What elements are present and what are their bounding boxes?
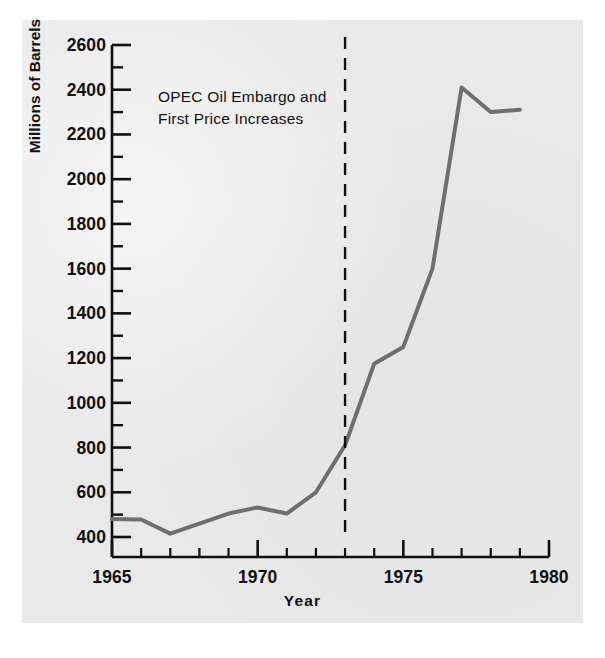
y-axis-tick-label: 2000 bbox=[40, 169, 106, 190]
y-axis-tick-label: 1400 bbox=[40, 303, 106, 324]
y-axis-title: Millions of Barrels bbox=[26, 0, 44, 186]
y-axis-tick-label: 1800 bbox=[40, 213, 106, 234]
chart-figure: 4006008001000120014001600180020002200240… bbox=[0, 0, 605, 658]
y-axis-tick-label: 400 bbox=[40, 527, 106, 548]
y-axis-tick-label: 600 bbox=[40, 482, 106, 503]
y-axis-tick-label: 2600 bbox=[40, 35, 106, 56]
y-axis-tick-label: 2400 bbox=[40, 79, 106, 100]
y-axis-tick-label: 2200 bbox=[40, 124, 106, 145]
x-axis-tick-label: 1975 bbox=[384, 567, 423, 588]
x-axis-tick-label: 1965 bbox=[92, 567, 131, 588]
x-axis-title: Year bbox=[0, 592, 605, 610]
y-axis-tick-label: 1000 bbox=[40, 392, 106, 413]
y-axis-tick-label: 800 bbox=[40, 437, 106, 458]
annotation-text-line: First Price Increases bbox=[158, 110, 303, 128]
chart-series-line bbox=[112, 87, 520, 533]
y-axis-tick-label: 1600 bbox=[40, 258, 106, 279]
y-axis-tick-label: 1200 bbox=[40, 348, 106, 369]
annotation-text-line: OPEC Oil Embargo and bbox=[158, 88, 327, 106]
x-axis-tick-label: 1970 bbox=[238, 567, 277, 588]
x-axis-tick-label: 1980 bbox=[529, 567, 568, 588]
